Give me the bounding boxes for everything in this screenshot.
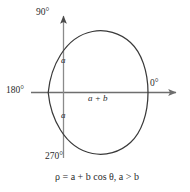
axis-label-90-degrees: 90° [36,8,49,18]
dimension-label-a-upper: a [61,56,66,65]
axis-label-270-degrees: 270° [45,152,63,162]
dimension-label-a-plus-b: a + b [88,94,108,103]
axis-label-180-degrees: 180° [6,86,24,96]
polar-diagram-figure: 90° 180° 0° 270° a a a + b ρ = a + b cos… [0,0,190,192]
equation-caption: ρ = a + b cos θ, a > b [55,172,139,182]
axis-label-0-degrees: 0° [150,79,159,89]
dimension-label-a-lower: a [61,111,66,120]
